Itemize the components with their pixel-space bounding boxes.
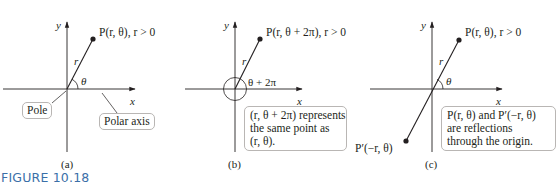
panel-b-caption: (b) (228, 158, 241, 170)
panel-b-note-line-1: (r, θ + 2π) represents (250, 109, 341, 122)
panel-a-x-axis-label: x (130, 95, 135, 107)
panel-b-point-label: P(r, θ + 2π), r > 0 (266, 26, 346, 38)
panel-c-point-label: P(r, θ), r > 0 (465, 26, 521, 38)
panel-a-y-axis-label: y (56, 19, 61, 31)
figure-label: FIGURE 10.18 (1, 170, 89, 185)
panel-a-graphics (3, 22, 135, 152)
panel-c-y-axis-label: y (421, 19, 426, 31)
panel-b-radius-label: r (242, 55, 246, 67)
panel-c-reflected-point-label: P′(−r, θ) (355, 142, 393, 154)
pole-callout: Pole (22, 102, 52, 119)
panel-c-note: P(r, θ) and P′(−r, θ) are reflections th… (441, 106, 556, 151)
polar-axis-leader-line (102, 93, 117, 113)
panel-c-note-line-3: through the origin. (447, 135, 550, 148)
panel-a-radius-line (67, 39, 93, 89)
panel-b-y-axis-label: y (224, 19, 229, 31)
panel-c-point-p (456, 37, 461, 42)
panel-b-note: (r, θ + 2π) represents the same point as… (244, 106, 347, 151)
panel-c-note-line-2: are reflections (447, 122, 550, 135)
polar-axis-callout: Polar axis (99, 113, 155, 130)
panel-b-angle-label: θ + 2π (248, 76, 276, 88)
panel-a-radius-label: r (74, 55, 78, 67)
panel-b-note-line-3: (r, θ). (250, 135, 341, 148)
panel-a-caption: (a) (61, 158, 73, 170)
panel-c-radius-label: r (439, 55, 443, 67)
panel-a-angle-label: θ (81, 75, 86, 87)
panel-c-caption: (c) (425, 158, 437, 170)
panel-a-point-p (90, 36, 95, 41)
panel-b-point-p (257, 36, 262, 41)
panel-a-angle-arc (72, 79, 78, 89)
panel-c-note-line-1: P(r, θ) and P′(−r, θ) (447, 109, 550, 122)
panel-a-point-label: P(r, θ), r > 0 (99, 26, 155, 38)
pole-leader-line (52, 91, 66, 103)
panel-c-angle-label: θ (446, 75, 451, 87)
panel-b-note-line-2: the same point as (250, 122, 341, 135)
panel-c-point-p-prime (403, 138, 408, 143)
